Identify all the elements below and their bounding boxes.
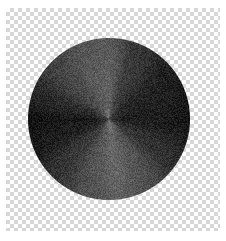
image-canvas: Noisy angular gradient disc on transpare… — [0, 0, 226, 241]
transparency-checkerboard — [6, 8, 220, 231]
